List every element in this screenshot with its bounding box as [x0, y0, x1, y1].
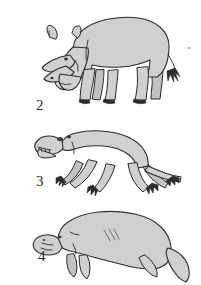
rhino-hind-leg [135, 67, 149, 100]
manatee-flipper-far [67, 254, 77, 277]
ink-speck [188, 47, 190, 49]
lizard-fore-leg-2 [94, 164, 115, 192]
manatee-eye [58, 236, 61, 238]
rhino-muzzle [59, 74, 81, 90]
figure-rhinoceros [42, 17, 180, 104]
manatee-nostril [43, 239, 46, 241]
rhino-eye [64, 58, 68, 61]
figure-manatee [33, 211, 189, 282]
rhino-mid-leg [105, 70, 118, 100]
figure-label-3: 3 [36, 174, 44, 189]
rhino-ear-far [72, 26, 81, 38]
lizard-fore-foot-claws [56, 176, 66, 187]
figure-lizard-quadruped [35, 131, 181, 196]
figure-illustrations: .body { fill: #d0d0d0; stroke: #2b2b2b; … [0, 0, 201, 285]
lizard-hind-foot-claws [146, 183, 158, 194]
manatee-flipper-near [79, 255, 90, 279]
lizard-eye-far [67, 136, 71, 139]
figure-plate: .body { fill: #d0d0d0; stroke: #2b2b2b; … [0, 0, 201, 285]
rhino-tail-tuft [167, 68, 180, 82]
figure-label-4: 4 [38, 249, 46, 264]
figure-label-2: 2 [36, 98, 44, 113]
manatee-tail-paddle [166, 248, 189, 282]
rhino-eye-far [50, 77, 53, 79]
lizard-eye [57, 137, 63, 141]
